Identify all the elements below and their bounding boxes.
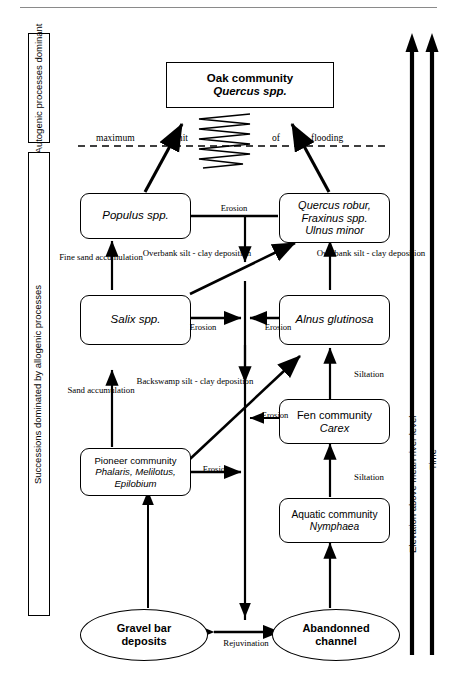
node-channel-line-2: channel <box>302 635 369 648</box>
node-populus-line-1: Populus spp. <box>102 209 169 222</box>
node-quercus-fraxinus-ulnus: Quercus robur, Fraxinus spp. Ulnus minor <box>279 193 390 243</box>
node-pioneer-community: Pioneer community Phalaris, Melilotus, E… <box>80 448 191 496</box>
node-gravel-bar-deposits: Gravel bar deposits <box>80 609 208 661</box>
flood-word-maximum: maximum <box>96 133 135 144</box>
node-gravel-line-2: deposits <box>117 635 171 648</box>
node-abandonned-channel: Abandonned channel <box>272 609 400 661</box>
edge-label-siltation-aquatic: Siltation <box>354 472 384 482</box>
node-channel-line-1: Abandonned <box>302 622 369 635</box>
node-salix: Salix spp. <box>80 295 191 345</box>
succession-diagram: Autogenic processes dominant Successions… <box>0 0 454 691</box>
edge-label-overbank-right: Overbank silt - clay deposition <box>317 248 426 258</box>
node-pioneer-line-1: Pioneer community <box>94 455 176 466</box>
node-aquatic-line-2: Nymphaea <box>291 521 377 533</box>
edge-label-sand-accumulation: Sand accumulation <box>67 385 134 395</box>
node-oak-community: Oak community Quercus spp. <box>166 62 334 108</box>
edge-label-rejuvination: Rejuvination <box>223 638 268 648</box>
panel-autogenic-label: Autogenic processes dominant <box>34 23 45 153</box>
node-gravel-line-1: Gravel bar <box>117 622 171 635</box>
edge-label-overbank-left: Overbank silt - clay deposition <box>143 248 252 258</box>
edge-label-erosion-populus-quercus: Erosion <box>221 204 248 214</box>
axis-label-elevation: Elevation above mean river level <box>408 416 418 553</box>
node-alnus-line-1: Alnus glutinosa <box>296 313 374 326</box>
edge-label-erosion-salix: Erosion <box>190 323 217 333</box>
node-fen-community: Fen community Carex <box>279 399 390 444</box>
node-salix-line-1: Salix spp. <box>111 313 161 326</box>
edge-label-backswamp: Backswamp silt - clay deposition <box>137 376 254 386</box>
node-alnus-glutinosa: Alnus glutinosa <box>279 295 390 345</box>
node-fen-line-2: Carex <box>297 422 372 435</box>
node-populus: Populus spp. <box>80 193 191 239</box>
flood-word-of: of <box>272 133 280 144</box>
node-fen-line-1: Fen community <box>297 409 372 422</box>
panel-allogenic-label: Successions dominated by allogenic proce… <box>34 284 45 483</box>
edge-label-erosion-alnus: Erosion <box>265 323 292 333</box>
node-quercus-line-1: Quercus robur, <box>298 199 371 212</box>
node-pioneer-line-3: Epilobium <box>94 478 176 489</box>
edge-label-fine-sand-accumulation: Fine sand accumulation <box>59 252 143 262</box>
flood-word-flooding: flooding <box>311 133 343 144</box>
node-aquatic-community: Aquatic community Nymphaea <box>279 498 390 543</box>
edge-label-siltation-fen: Siltation <box>354 369 384 379</box>
axis-label-time: Time <box>428 449 438 470</box>
node-quercus-line-3: Ulnus minor <box>298 224 371 237</box>
axis-arrow-time <box>426 33 439 655</box>
node-quercus-line-2: Fraxinus spp. <box>298 212 371 225</box>
node-oak-line-1: Oak community <box>207 72 293 85</box>
panel-autogenic: Autogenic processes dominant <box>28 33 50 143</box>
zigzag-fluctuation <box>199 114 250 168</box>
panel-allogenic: Successions dominated by allogenic proce… <box>28 152 50 616</box>
node-pioneer-line-2: Phalaris, Melilotus, <box>94 466 176 477</box>
node-aquatic-line-1: Aquatic community <box>291 509 377 521</box>
node-oak-line-2: Quercus spp. <box>207 85 293 98</box>
flood-word-limit: limit <box>170 133 188 144</box>
edge-label-erosion-pioneer: Erosion <box>203 465 230 475</box>
axis-arrow-elevation <box>406 33 419 655</box>
edge-label-erosion-fen: Erosion <box>262 411 289 421</box>
